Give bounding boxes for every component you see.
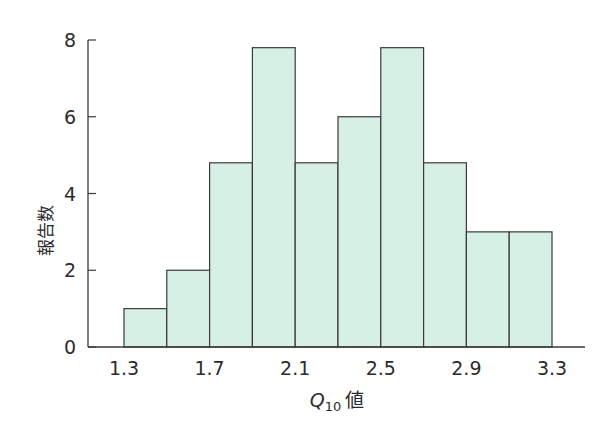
histogram-bar — [295, 163, 338, 347]
x-axis-label-suffix: 値 — [345, 389, 364, 411]
y-tick-label: 4 — [64, 183, 76, 205]
x-tick-label: 2.9 — [451, 357, 481, 379]
histogram-chart: 02468 1.31.72.12.52.93.3 報告数 Q10値 — [0, 0, 612, 429]
x-tick-label: 2.1 — [280, 357, 310, 379]
histogram-bar — [466, 232, 509, 347]
y-tick-label: 2 — [64, 259, 76, 281]
x-axis-label-symbol: Q — [310, 389, 325, 411]
histogram-bar — [210, 163, 253, 347]
histogram-bar — [338, 117, 381, 347]
x-tick-label: 1.7 — [194, 357, 224, 379]
histogram-bar — [124, 309, 167, 347]
histogram-bar — [509, 232, 552, 347]
histogram-bar — [252, 48, 295, 347]
histogram-bar — [424, 163, 467, 347]
y-axis-ticks: 02468 — [64, 29, 96, 358]
y-tick-label: 0 — [64, 336, 76, 358]
x-axis-label-subscript: 10 — [325, 399, 342, 414]
x-tick-label: 2.5 — [366, 357, 396, 379]
histogram-bars — [124, 48, 552, 347]
y-axis-label: 報告数 — [36, 205, 56, 256]
y-tick-label: 8 — [64, 29, 76, 51]
x-axis-label: Q10値 — [310, 389, 365, 414]
x-tick-label: 1.3 — [109, 357, 139, 379]
histogram-bar — [381, 48, 424, 347]
y-tick-label: 6 — [64, 106, 76, 128]
x-tick-label: 3.3 — [537, 357, 567, 379]
x-axis-ticks: 1.31.72.12.52.93.3 — [109, 357, 567, 379]
histogram-bar — [167, 270, 210, 347]
